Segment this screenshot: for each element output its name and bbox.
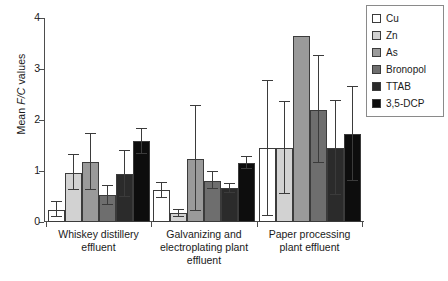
error-bar-cap-upper	[347, 86, 358, 87]
y-tick-label: 4	[10, 11, 40, 24]
legend-label: Bronopol	[386, 64, 426, 75]
error-bar-cap-upper	[279, 101, 290, 102]
error-bar-line	[212, 172, 213, 189]
legend-item-as[interactable]: As	[372, 44, 439, 61]
error-bar-cap-upper	[156, 182, 167, 183]
bar-bronopol[interactable]	[99, 18, 116, 222]
bar-rect[interactable]	[293, 36, 310, 222]
plot-area: 01234	[44, 18, 364, 222]
bar-as[interactable]	[187, 18, 204, 222]
error-bar-line	[107, 186, 108, 204]
legend-item-ttab[interactable]: TTAB	[372, 78, 439, 95]
error-bar-cap-upper	[241, 156, 252, 157]
error-bar-cap-lower	[241, 168, 252, 169]
bar-cu[interactable]	[48, 18, 65, 222]
legend-item-cu[interactable]: Cu	[372, 10, 439, 27]
error-bar-cap-upper	[68, 154, 79, 155]
error-bar-cap-lower	[173, 216, 184, 217]
category-label-line: Galvanizing and	[144, 228, 264, 241]
bar-rect[interactable]	[238, 163, 255, 222]
error-bar-cap-upper	[136, 128, 147, 129]
error-bar-cap-upper	[173, 209, 184, 210]
error-bar-cap-lower	[156, 197, 167, 198]
bar-3-5-dcp[interactable]	[344, 18, 361, 222]
legend-item-zn[interactable]: Zn	[372, 27, 439, 44]
error-bar-cap-lower	[190, 210, 201, 211]
error-bar-cap-upper	[262, 80, 273, 81]
legend-item-bronopol[interactable]: Bronopol	[372, 61, 439, 78]
legend-item-3-5-dcp[interactable]: 3,5-DCP	[372, 95, 439, 112]
bar-ttab[interactable]	[221, 18, 238, 222]
bar-bronopol[interactable]	[204, 18, 221, 222]
error-bar-cap-upper	[51, 201, 62, 202]
error-bar-cap-lower	[68, 189, 79, 190]
x-axis-tick	[362, 222, 363, 227]
legend-swatch	[372, 99, 381, 108]
legend-swatch	[372, 82, 381, 91]
bar-zn[interactable]	[276, 18, 293, 222]
category-label: Whiskey distilleryeffluent	[39, 228, 159, 254]
legend-swatch	[372, 65, 381, 74]
bar-cu[interactable]	[259, 18, 276, 222]
legend-swatch	[372, 31, 381, 40]
chart-legend: CuZnAsBronopolTTAB3,5-DCP	[366, 5, 444, 117]
legend-swatch	[372, 14, 381, 23]
error-bar-line	[352, 87, 353, 181]
error-bar-cap-lower	[207, 188, 218, 189]
bar-as[interactable]	[82, 18, 99, 222]
category-label-line: Paper processing	[250, 228, 370, 241]
legend-label: Cu	[386, 13, 399, 24]
error-bar-cap-upper	[119, 150, 130, 151]
error-bar-cap-lower	[119, 196, 130, 197]
bar-group	[153, 18, 255, 222]
bar-3-5-dcp[interactable]	[133, 18, 150, 222]
bar-zn[interactable]	[170, 18, 187, 222]
error-bar-line	[267, 81, 268, 216]
error-bar-cap-upper	[207, 171, 218, 172]
bar-zn[interactable]	[65, 18, 82, 222]
error-bar-cap-lower	[330, 194, 341, 195]
error-bar-line	[141, 129, 142, 155]
error-bar-cap-upper	[85, 133, 96, 134]
error-bar-line	[90, 134, 91, 190]
legend-label: TTAB	[386, 81, 411, 92]
category-label-line: plant effluent	[250, 241, 370, 254]
bar-chart-figure: Mean F/C values 01234 Whiskey distillery…	[0, 0, 448, 281]
error-bar-cap-lower	[347, 180, 358, 181]
bar-ttab[interactable]	[116, 18, 133, 222]
legend-label: As	[386, 47, 398, 58]
y-tick-label: 1	[10, 164, 40, 177]
bar-ttab[interactable]	[327, 18, 344, 222]
y-axis-title-italic: F/C	[15, 88, 27, 105]
error-bar-cap-upper	[313, 55, 324, 56]
category-label-line: electroplating plant	[144, 241, 264, 254]
bar-as[interactable]	[293, 18, 310, 222]
error-bar-cap-lower	[279, 193, 290, 194]
category-label: Galvanizing andelectroplating plantefflu…	[144, 228, 264, 267]
error-bar-line	[195, 106, 196, 211]
error-bar-line	[318, 56, 319, 163]
error-bar-cap-lower	[85, 189, 96, 190]
error-bar-cap-lower	[224, 192, 235, 193]
error-bar-cap-upper	[102, 185, 113, 186]
legend-swatch	[372, 48, 381, 57]
x-axis-tick	[257, 222, 258, 227]
bar-3-5-dcp[interactable]	[238, 18, 255, 222]
y-axis-line	[44, 18, 45, 222]
error-bar-line	[56, 202, 57, 217]
error-bar-cap-lower	[102, 204, 113, 205]
bar-rect[interactable]	[221, 188, 238, 222]
bar-group	[259, 18, 361, 222]
bar-cu[interactable]	[153, 18, 170, 222]
category-label-line: effluent	[39, 241, 159, 254]
error-bar-cap-lower	[313, 162, 324, 163]
y-tick-label: 0	[10, 215, 40, 228]
error-bar-cap-lower	[262, 215, 273, 216]
error-bar-cap-lower	[136, 153, 147, 154]
error-bar-cap-lower	[51, 216, 62, 217]
x-axis-tick	[151, 222, 152, 227]
y-tick-label: 2	[10, 113, 40, 126]
bar-bronopol[interactable]	[310, 18, 327, 222]
error-bar-line	[335, 101, 336, 195]
error-bar-cap-upper	[224, 183, 235, 184]
